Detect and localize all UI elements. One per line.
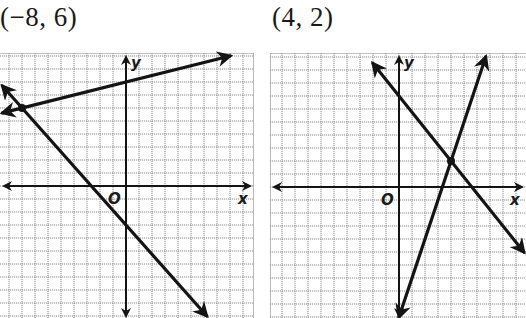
x-axis-label: x	[237, 190, 249, 208]
intersection-point	[18, 104, 26, 112]
intersection-point	[447, 157, 455, 165]
origin-label: O	[381, 191, 394, 209]
graphs-canvas: xyO xyO	[0, 0, 526, 318]
y-axis-label: y	[131, 54, 142, 72]
x-axis-label: x	[509, 191, 521, 209]
graph-line-2	[373, 64, 524, 253]
y-axis-label: y	[404, 54, 415, 72]
graph-right: xyO	[270, 53, 526, 318]
graph-line-1	[3, 56, 231, 113]
graph-left: xyO	[0, 53, 254, 318]
graph-line-2	[3, 86, 207, 316]
